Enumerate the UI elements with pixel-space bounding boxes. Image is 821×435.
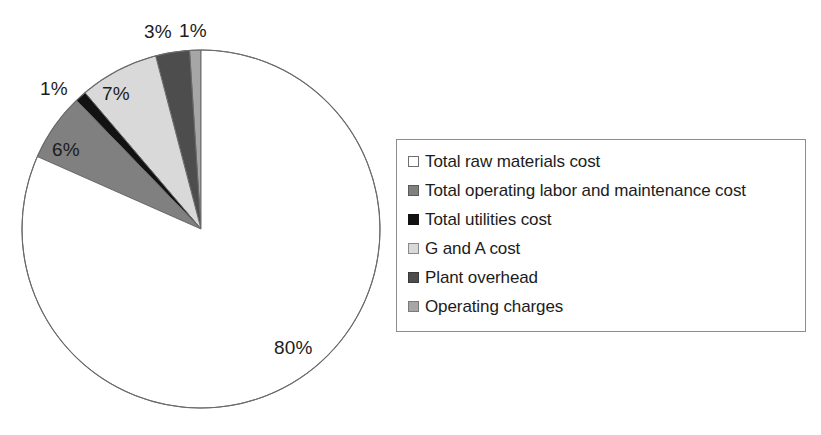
legend-item-operating-charges[interactable]: Operating charges (403, 292, 799, 321)
pie-chart-plot-area: 3% 1% 1% 7% 6% 80% (0, 0, 400, 435)
pie-data-label-plant-overhead: 3% (144, 22, 172, 41)
pie-data-label-total-utilities-cost: 1% (40, 79, 68, 98)
pie-data-label-total-raw-materials-cost: 80% (274, 338, 313, 357)
pie-data-label-g-and-a-cost: 7% (102, 84, 130, 103)
legend-label-operating-charges: Operating charges (425, 298, 563, 315)
pie-chart-figure: 3% 1% 1% 7% 6% 80% Total raw materials c… (0, 0, 821, 435)
legend-swatch-icon-total-utilities-cost (408, 214, 419, 225)
pie-data-label-operating-labor-cost: 6% (52, 140, 80, 159)
legend-label-total-raw-materials-cost: Total raw materials cost (425, 153, 600, 170)
legend-label-g-and-a-cost: G and A cost (425, 240, 520, 257)
legend-item-total-utilities-cost[interactable]: Total utilities cost (403, 205, 799, 234)
legend-swatch-icon-plant-overhead (408, 272, 419, 283)
legend-item-total-raw-materials-cost[interactable]: Total raw materials cost (403, 147, 799, 176)
legend-swatch-icon-total-raw-materials-cost (408, 156, 419, 167)
legend-label-total-operating-labor-and-maintenance-cost: Total operating labor and maintenance co… (425, 182, 746, 199)
legend-swatch-icon-operating-charges (408, 301, 419, 312)
legend-swatch-icon-g-and-a-cost (408, 243, 419, 254)
pie-chart-svg (0, 0, 400, 435)
legend-swatch-icon-total-operating-labor-and-maintenance-cost (408, 185, 419, 196)
legend-label-plant-overhead: Plant overhead (425, 269, 538, 286)
pie-data-label-operating-charges: 1% (179, 21, 207, 40)
legend-label-total-utilities-cost: Total utilities cost (425, 211, 552, 228)
legend-item-plant-overhead[interactable]: Plant overhead (403, 263, 799, 292)
legend-item-g-and-a-cost[interactable]: G and A cost (403, 234, 799, 263)
chart-legend: Total raw materials cost Total operating… (396, 139, 806, 332)
legend-item-total-operating-labor-and-maintenance-cost[interactable]: Total operating labor and maintenance co… (403, 176, 799, 205)
